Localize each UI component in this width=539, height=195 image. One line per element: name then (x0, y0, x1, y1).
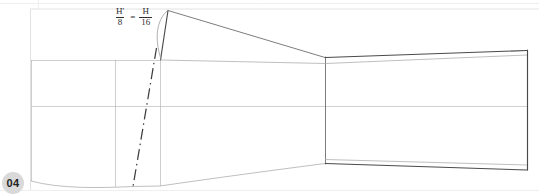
formula-right-denominator: 16 (139, 17, 152, 28)
technical-drawing-canvas (0, 0, 539, 195)
lower-contour (31, 164, 325, 188)
formula-annotation: H' 8 = H 16 (114, 7, 152, 27)
dash-dot-construction-line (133, 48, 157, 187)
formula-equals-sign: = (129, 13, 136, 22)
formula-left-denominator: 8 (116, 17, 125, 28)
formula-left-fraction: H' 8 (114, 7, 126, 27)
upper-taper-line-inner (161, 60, 326, 64)
upper-taper-line-outer (168, 11, 325, 58)
drawing-sheet: H' 8 = H 16 04 (0, 0, 539, 195)
formula-right-fraction: H 16 (139, 7, 152, 27)
page-number-badge: 04 (2, 172, 24, 194)
formula-left-numerator: H' (114, 7, 126, 17)
formula-right-numerator: H (140, 7, 151, 17)
